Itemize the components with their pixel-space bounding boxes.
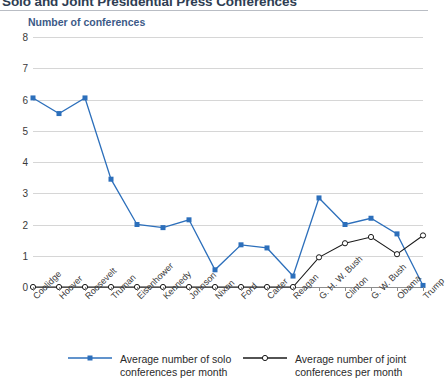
x-axis-tick xyxy=(163,287,164,291)
solo-data-point xyxy=(291,274,296,279)
x-axis-minor-tick xyxy=(358,287,359,290)
legend-label-line2: conferences per month xyxy=(295,366,406,379)
x-axis-minor-tick xyxy=(332,287,333,290)
legend-marker xyxy=(262,355,267,360)
solo-data-point xyxy=(213,267,218,272)
legend-item-joint-series[interactable]: Average number of jointconferences per m… xyxy=(295,353,406,379)
y-axis-tick-label: 2 xyxy=(4,219,28,230)
solo-data-point xyxy=(395,231,400,236)
y-axis-tick-label: 4 xyxy=(4,157,28,168)
y-axis-tick-label: 0 xyxy=(4,282,28,293)
x-axis-tick xyxy=(215,287,216,291)
chart-legend: Average number of soloconferences per mo… xyxy=(0,351,428,390)
x-axis-tick xyxy=(319,287,320,291)
x-axis-tick xyxy=(85,287,86,291)
series-layer xyxy=(33,37,423,287)
joint-series-line xyxy=(33,235,423,287)
x-axis-tick xyxy=(137,287,138,291)
legend-swatch-solo-series xyxy=(68,352,112,364)
solo-data-point xyxy=(187,217,192,222)
x-axis-tick xyxy=(345,287,346,291)
joint-data-point xyxy=(394,252,399,257)
x-axis-tick xyxy=(33,287,34,291)
x-axis-tick xyxy=(111,287,112,291)
x-axis-minor-tick xyxy=(410,287,411,290)
x-axis-tick xyxy=(397,287,398,291)
solo-data-point xyxy=(161,225,166,230)
legend-label-line1: Average number of solo xyxy=(120,353,231,366)
solo-data-point xyxy=(317,195,322,200)
x-axis-tick xyxy=(423,287,424,291)
joint-data-point xyxy=(420,233,425,238)
x-axis-minor-tick xyxy=(124,287,125,290)
y-axis-title: Number of conferences xyxy=(28,16,145,28)
x-axis-minor-tick xyxy=(150,287,151,290)
x-axis-ticks xyxy=(33,287,423,292)
x-axis-minor-tick xyxy=(46,287,47,290)
legend-swatch-joint-series xyxy=(243,352,287,364)
chart-title: Solo and Joint Presidential Press Confer… xyxy=(2,0,297,9)
x-axis-tick xyxy=(371,287,372,291)
solo-data-point xyxy=(343,222,348,227)
joint-data-point xyxy=(342,241,347,246)
x-axis-minor-tick xyxy=(384,287,385,290)
x-axis-minor-tick xyxy=(228,287,229,290)
x-axis-minor-tick xyxy=(98,287,99,290)
x-axis-tick xyxy=(267,287,268,291)
solo-data-point xyxy=(31,95,36,100)
solo-data-point xyxy=(265,245,270,250)
x-axis-minor-tick xyxy=(72,287,73,290)
y-axis-tick-label: 3 xyxy=(4,188,28,199)
header-divider xyxy=(0,10,428,11)
solo-data-point xyxy=(135,222,140,227)
solo-data-point xyxy=(83,95,88,100)
x-axis-minor-tick xyxy=(202,287,203,290)
y-axis-tick-label: 6 xyxy=(4,94,28,105)
legend-marker xyxy=(88,356,93,361)
legend-label-line2: conferences per month xyxy=(120,366,231,379)
x-axis-minor-tick xyxy=(306,287,307,290)
x-axis-tick xyxy=(293,287,294,291)
y-axis-tick-label: 1 xyxy=(4,250,28,261)
solo-data-point xyxy=(369,216,374,221)
y-axis-tick-label: 7 xyxy=(4,63,28,74)
joint-data-point xyxy=(316,255,321,260)
x-axis-minor-tick xyxy=(280,287,281,290)
solo-data-point xyxy=(109,177,114,182)
legend-item-solo-series[interactable]: Average number of soloconferences per mo… xyxy=(120,353,231,379)
y-axis-tick-label: 8 xyxy=(4,32,28,43)
x-axis-tick-label: Trump xyxy=(421,276,446,301)
x-axis-minor-tick xyxy=(176,287,177,290)
y-axis-tick-labels: 012345678 xyxy=(0,37,28,287)
joint-data-point xyxy=(368,234,373,239)
y-axis-tick-label: 5 xyxy=(4,125,28,136)
x-axis-tick xyxy=(59,287,60,291)
solo-series-line xyxy=(33,98,423,286)
x-axis-minor-tick xyxy=(254,287,255,290)
x-axis-tick xyxy=(189,287,190,291)
solo-data-point xyxy=(57,111,62,116)
legend-label-line1: Average number of joint xyxy=(295,353,406,366)
x-axis-tick xyxy=(241,287,242,291)
solo-data-point xyxy=(239,242,244,247)
